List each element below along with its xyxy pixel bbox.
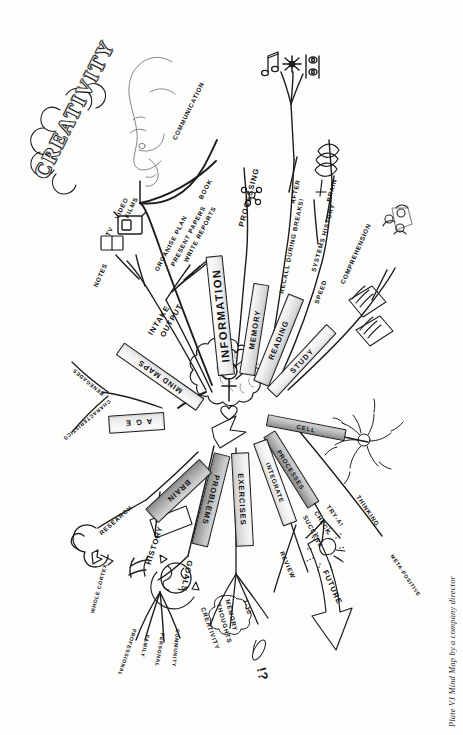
branch-label-information: INFORMATION	[207, 256, 234, 375]
branch-ribbon-age[interactable]: AGE	[108, 412, 165, 434]
leaf-label-family: FAMILY	[140, 634, 151, 658]
neuron-icon	[325, 399, 403, 484]
sub-label-systems-history: SYSTEMS HISTORY	[310, 203, 336, 273]
branch-ribbon-information[interactable]: INFORMATION	[206, 255, 235, 376]
plate-caption: Plate VJ Mind Map by a company director	[448, 576, 457, 727]
leaf-label-personal: PERSONAL	[154, 632, 166, 667]
branch-label-exercises: EXERCISES	[232, 453, 253, 546]
leaf-label-question-exclaim: !?	[254, 666, 272, 683]
sub-label-goals: GOALS	[179, 560, 194, 593]
sparkle-icon	[283, 56, 301, 72]
branch-ribbon-exercises[interactable]: EXERCISES	[231, 452, 254, 547]
sub-label-comprehension: COMPREHENSION	[339, 222, 372, 285]
leaf-label-renegades: RENEGADES	[71, 368, 105, 398]
music-note-icon	[262, 52, 279, 76]
leaf-label-future: FUTURE	[321, 569, 344, 606]
leaf-label-book: BOOK	[197, 178, 213, 201]
group-of-people-icon	[383, 205, 412, 234]
notes-icon	[101, 236, 123, 250]
papers-icon	[349, 286, 393, 346]
sub-label-brain: BRAIN	[325, 178, 338, 203]
sub-label-research: RESEARCH	[98, 504, 134, 536]
leaf-label-professional: PROFESSIONAL	[117, 628, 138, 677]
branch-label-age: AGE	[109, 413, 164, 433]
leaf-label-meta-positive: META-POSITIVE	[390, 553, 422, 597]
mind-map-plate: INFORMATION MEMORY READING STUDY CELL PR…	[0, 0, 463, 735]
sub-label-thinking: THINKING	[355, 494, 381, 528]
sub-label-processing: PROCESSING	[237, 167, 261, 228]
leaf-label-community: COMMUNITY	[171, 629, 181, 668]
branch-label-mind-maps: MIND MAPS	[117, 344, 203, 410]
branch-ribbon-mind-maps[interactable]: MIND MAPS	[116, 342, 205, 410]
plate-caption-text: Plate VJ Mind Map by a company director	[448, 576, 457, 727]
branch-label-creativity: CREATIVITY	[29, 36, 121, 183]
sub-label-communication: COMMUNICATION	[171, 81, 205, 142]
eyes-icon	[306, 55, 319, 78]
speaking-head-icon	[129, 57, 175, 186]
leaf-label-review: REVIEW	[279, 550, 297, 580]
leaf-label-one-to-ten: 1-10	[243, 599, 254, 616]
creativity-oval-icon	[250, 638, 268, 662]
sub-label-speed: SPEED	[313, 279, 328, 305]
sub-label-history: HISTORY	[144, 525, 165, 566]
leaf-label-characteristics: CHARACTERISTICS	[62, 399, 112, 442]
sub-label-recall-during-breaks: RECALL DURING BREAKS!	[278, 197, 305, 294]
leaf-label-whole-cortex: WHOLE CORTEX	[89, 563, 108, 614]
leaf-label-notes: NOTES	[92, 262, 109, 288]
leaf-label-tv: TV	[104, 225, 114, 237]
